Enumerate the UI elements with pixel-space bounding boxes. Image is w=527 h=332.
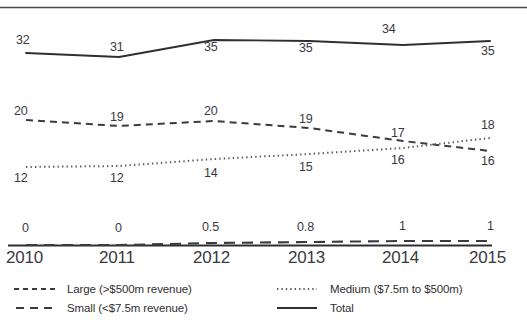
series-line-medium — [26, 138, 490, 167]
legend-column-right: Medium ($7.5m to $500m) Total — [277, 279, 463, 317]
data-label-large-2011: 19 — [110, 110, 124, 124]
series-line-large — [26, 120, 490, 151]
series-line-total — [26, 40, 490, 57]
legend-label-total: Total — [330, 302, 354, 314]
legend-swatch-dashed-icon — [14, 284, 58, 294]
chart-container: 32 31 35 35 34 35 20 19 20 19 17 16 12 1… — [0, 0, 527, 332]
data-label-medium-2011: 12 — [110, 171, 124, 185]
legend-label-small: Small (<$7.5m revenue) — [67, 302, 188, 314]
x-tick-2011: 2011 — [99, 248, 135, 268]
data-label-large-2015: 16 — [481, 154, 495, 168]
data-label-small-2014: 1 — [399, 219, 406, 233]
data-label-large-2013: 19 — [299, 112, 313, 126]
x-axis-tick-labels: 2010 2011 2012 2013 2014 2015 — [0, 248, 527, 274]
data-label-total-2011: 31 — [110, 40, 124, 54]
legend-label-large: Large (>$500m revenue) — [67, 283, 192, 295]
data-label-medium-2010: 12 — [14, 171, 28, 185]
data-label-large-2014: 17 — [391, 126, 405, 140]
data-label-small-2011: 0 — [115, 221, 122, 235]
legend-item-large[interactable]: Large (>$500m revenue) — [14, 279, 192, 298]
data-label-small-2010: 0 — [22, 221, 29, 235]
data-label-small-2015: 1 — [487, 219, 494, 233]
data-label-medium-2015: 18 — [481, 118, 495, 132]
legend-item-small[interactable]: Small (<$7.5m revenue) — [14, 298, 192, 317]
x-tick-2013: 2013 — [288, 248, 325, 268]
data-label-medium-2014: 16 — [391, 153, 405, 167]
data-label-total-2010: 32 — [16, 33, 30, 47]
data-label-total-2012: 35 — [204, 40, 218, 54]
x-tick-2015: 2015 — [469, 248, 506, 268]
x-tick-2010: 2010 — [6, 248, 43, 268]
data-label-total-2014: 34 — [382, 22, 396, 36]
data-label-medium-2013: 15 — [299, 160, 313, 174]
series-line-small — [26, 241, 490, 245]
data-label-small-2012: 0.5 — [202, 220, 219, 234]
data-label-large-2010: 20 — [14, 104, 28, 118]
x-tick-2014: 2014 — [382, 248, 419, 268]
legend-item-total[interactable]: Total — [277, 298, 463, 317]
legend-swatch-dotted-icon — [277, 284, 321, 294]
legend-swatch-solid-icon — [277, 303, 321, 313]
data-label-total-2015: 35 — [481, 44, 495, 58]
legend-swatch-dashed-wide-icon — [14, 303, 58, 313]
legend-label-medium: Medium ($7.5m to $500m) — [330, 283, 463, 295]
chart-legend: Large (>$500m revenue) Small (<$7.5m rev… — [0, 279, 527, 323]
legend-column-left: Large (>$500m revenue) Small (<$7.5m rev… — [14, 279, 192, 317]
data-label-medium-2012: 14 — [204, 166, 218, 180]
legend-item-medium[interactable]: Medium ($7.5m to $500m) — [277, 279, 463, 298]
data-label-large-2012: 20 — [204, 104, 218, 118]
x-tick-2012: 2012 — [193, 248, 230, 268]
data-label-total-2013: 35 — [299, 41, 313, 55]
data-label-small-2013: 0.8 — [297, 220, 314, 234]
